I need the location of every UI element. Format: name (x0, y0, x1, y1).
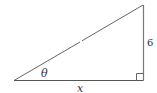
angle-label-theta: θ (41, 67, 48, 80)
side-label-6: 6 (147, 37, 153, 48)
side-label-x: x (77, 82, 84, 93)
hypotenuse-segment-upper (82, 5, 143, 41)
right-triangle-diagram: θ x 6 (0, 0, 157, 93)
right-angle-marker (137, 74, 144, 81)
